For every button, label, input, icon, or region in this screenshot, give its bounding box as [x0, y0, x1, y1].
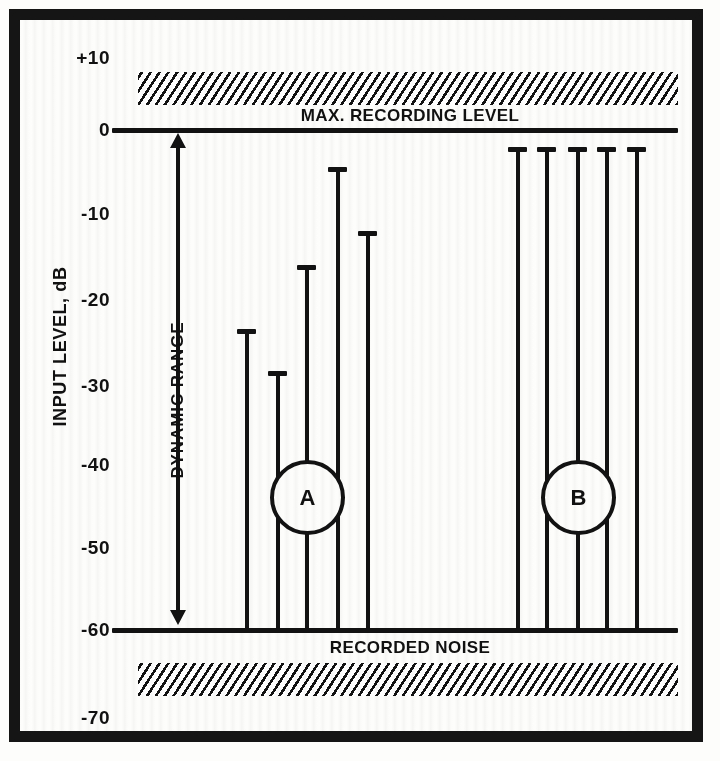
bar-a4-stem	[336, 170, 340, 630]
bar-b4-stem	[605, 150, 609, 630]
overload-hatch-band	[138, 72, 678, 105]
bar-a4-cap	[328, 167, 347, 172]
bar-b5-cap	[627, 147, 646, 152]
y-tick-label: -70	[48, 707, 110, 729]
bar-a1-cap	[237, 329, 256, 334]
bar-b3-cap	[568, 147, 587, 152]
y-axis-title: INPUT LEVEL, dB	[50, 227, 71, 467]
group-a-marker: A	[270, 460, 345, 535]
bar-a5-stem	[366, 234, 370, 630]
bar-b2-cap	[537, 147, 556, 152]
max-recording-level-label: MAX. RECORDING LEVEL	[190, 106, 630, 126]
y-tick-label: -10	[48, 203, 110, 225]
bar-b1-stem	[516, 150, 520, 630]
y-tick-label: +10	[48, 47, 110, 69]
bar-b3-stem	[576, 150, 580, 630]
bar-b4-cap	[597, 147, 616, 152]
y-tick-label: 0	[48, 119, 110, 141]
dynamic-range-label: DYNAMIC RANGE	[168, 250, 188, 550]
y-tick-label: -50	[48, 537, 110, 559]
plot-area: MAX. RECORDING LEVEL RECORDED NOISE +10 …	[0, 0, 720, 761]
bar-a2-cap	[268, 371, 287, 376]
group-b-marker: B	[541, 460, 616, 535]
recorded-noise-line	[112, 628, 678, 633]
bar-a1-stem	[245, 332, 249, 630]
max-recording-level-line	[112, 128, 678, 133]
bar-b1-cap	[508, 147, 527, 152]
bar-a3-stem	[305, 268, 309, 630]
y-tick-label: -60	[48, 619, 110, 641]
dynamic-range-figure: MAX. RECORDING LEVEL RECORDED NOISE +10 …	[0, 0, 720, 761]
bar-a3-cap	[297, 265, 316, 270]
recorded-noise-label: RECORDED NOISE	[190, 638, 630, 658]
noise-floor-hatch-band	[138, 663, 678, 696]
dynamic-range-arrowhead-down	[170, 610, 186, 625]
bar-b2-stem	[545, 150, 549, 630]
bar-a5-cap	[358, 231, 377, 236]
bar-b5-stem	[635, 150, 639, 630]
